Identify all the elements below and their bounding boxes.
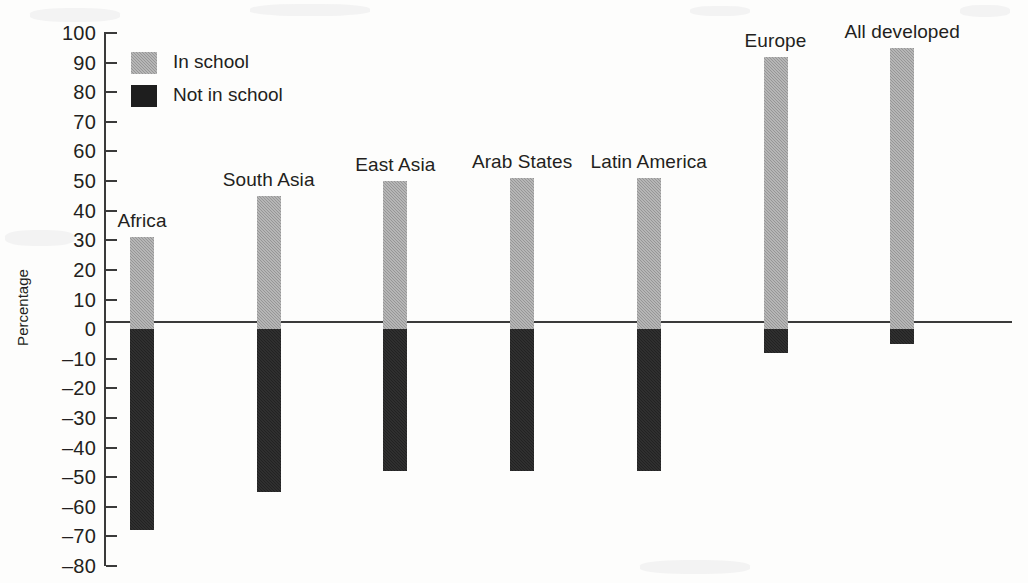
bar-in-school[interactable] [257, 196, 281, 329]
bar-in-school[interactable] [130, 237, 154, 329]
legend-swatch-in-school-icon [131, 52, 157, 74]
bar-category-label: Africa [20, 211, 264, 230]
bar-not-in-school[interactable] [764, 329, 788, 353]
bar-in-school[interactable] [383, 181, 407, 329]
bar-group[interactable]: Europe [764, 0, 788, 583]
bar-not-in-school[interactable] [130, 329, 154, 530]
bar-category-label: All developed [780, 22, 1024, 41]
bar-group[interactable]: All developed [890, 0, 914, 583]
legend-label-in-school: In school [173, 50, 249, 74]
bar-not-in-school[interactable] [383, 329, 407, 471]
bar-not-in-school[interactable] [257, 329, 281, 492]
legend-swatch-not-in-school-icon [131, 85, 157, 107]
bar-not-in-school[interactable] [637, 329, 661, 471]
bar-group[interactable]: Latin America [637, 0, 661, 583]
bar-in-school[interactable] [764, 57, 788, 329]
bar-not-in-school[interactable] [510, 329, 534, 471]
bar-category-label: Latin America [527, 152, 771, 171]
bar-in-school[interactable] [510, 178, 534, 329]
bar-group[interactable]: Arab States [510, 0, 534, 583]
legend-label-not-in-school: Not in school [173, 83, 283, 107]
chart-canvas: Percentage 1009080706050403020100–10–20–… [0, 0, 1028, 583]
bar-in-school[interactable] [637, 178, 661, 329]
bar-group[interactable]: East Asia [383, 0, 407, 583]
bar-in-school[interactable] [890, 48, 914, 329]
bar-not-in-school[interactable] [890, 329, 914, 344]
